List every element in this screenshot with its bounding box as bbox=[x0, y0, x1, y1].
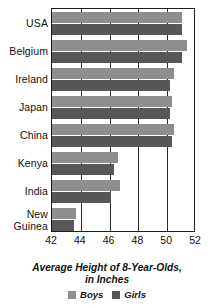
legend-swatch-girls bbox=[112, 291, 120, 299]
value-tick-44: 44 bbox=[74, 234, 86, 246]
legend-swatch-boys bbox=[68, 291, 76, 299]
category-label-line: Guinea bbox=[0, 221, 48, 233]
bar-boys bbox=[52, 40, 187, 51]
bar-girls bbox=[52, 80, 170, 91]
bar-chart: USABelgiumIrelandJapanChinaKenyaIndiaNew… bbox=[0, 0, 214, 307]
category-label-belgium: Belgium bbox=[0, 46, 48, 57]
legend-label-girls: Girls bbox=[124, 289, 146, 300]
bar-girls bbox=[52, 108, 170, 119]
category-label-kenya: Kenya bbox=[0, 158, 48, 169]
bar-group bbox=[52, 40, 194, 65]
value-tick-48: 48 bbox=[132, 234, 144, 246]
bar-group bbox=[52, 180, 194, 205]
bar-girls bbox=[52, 24, 182, 35]
bar-group bbox=[52, 12, 194, 37]
plot-area bbox=[51, 8, 195, 232]
axis-title: Average Height of 8-Year-Olds, in Inches bbox=[6, 262, 208, 286]
bar-girls bbox=[52, 220, 74, 231]
bar-girls bbox=[52, 192, 111, 203]
value-tick-46: 46 bbox=[103, 234, 115, 246]
legend-item-girls[interactable]: Girls bbox=[112, 289, 146, 300]
bar-group bbox=[52, 96, 194, 121]
bar-girls bbox=[52, 164, 114, 175]
category-label-india: India bbox=[0, 186, 48, 197]
legend-label-boys: Boys bbox=[80, 289, 103, 300]
bar-boys bbox=[52, 180, 120, 191]
axis-title-line-2: in Inches bbox=[6, 274, 208, 286]
bar-boys bbox=[52, 12, 182, 23]
bar-group bbox=[52, 124, 194, 149]
category-label-ireland: Ireland bbox=[0, 74, 48, 85]
bar-girls bbox=[52, 52, 182, 63]
bar-group bbox=[52, 208, 194, 233]
axis-title-line-1: Average Height of 8-Year-Olds, bbox=[6, 262, 208, 274]
bar-boys bbox=[52, 152, 118, 163]
bar-girls bbox=[52, 136, 172, 147]
value-tick-52: 52 bbox=[189, 234, 201, 246]
legend-item-boys[interactable]: Boys bbox=[68, 289, 103, 300]
value-axis-ticks: 424446485052 bbox=[51, 234, 195, 248]
bar-group bbox=[52, 152, 194, 177]
category-label-japan: Japan bbox=[0, 102, 48, 113]
value-tick-42: 42 bbox=[45, 234, 57, 246]
bar-boys bbox=[52, 96, 172, 107]
category-axis-labels: USABelgiumIrelandJapanChinaKenyaIndiaNew… bbox=[0, 8, 48, 232]
bar-boys bbox=[52, 124, 174, 135]
value-tick-50: 50 bbox=[160, 234, 172, 246]
bar-boys bbox=[52, 208, 76, 219]
category-label-china: China bbox=[0, 130, 48, 141]
category-label-line: New bbox=[0, 209, 48, 221]
chart-legend: BoysGirls bbox=[0, 289, 214, 300]
category-label-usa: USA bbox=[0, 18, 48, 29]
bar-group bbox=[52, 68, 194, 93]
bar-boys bbox=[52, 68, 174, 79]
category-label-new-guinea: NewGuinea bbox=[0, 209, 48, 232]
